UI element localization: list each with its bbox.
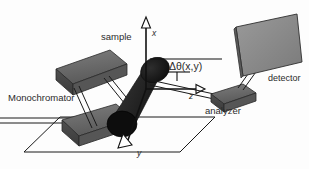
axis-x-label: x xyxy=(152,28,156,38)
incident-beam-lines xyxy=(0,118,72,123)
sample-label: sample xyxy=(101,31,132,42)
analyzer-label: analyzer xyxy=(205,105,241,116)
schematic-drawing xyxy=(0,0,309,169)
axis-z-label: z xyxy=(189,91,193,101)
detector-label: detector xyxy=(268,73,301,83)
axis-y-label: y xyxy=(137,148,141,158)
detector-panel xyxy=(234,14,302,78)
delta-theta-label: Δθ(x,y) xyxy=(169,60,202,72)
figure-canvas: sample Monochromator analyzer detector Δ… xyxy=(0,0,309,169)
monochromator-block-upper xyxy=(56,50,127,95)
monochromator-label: Monochromator xyxy=(8,92,75,103)
